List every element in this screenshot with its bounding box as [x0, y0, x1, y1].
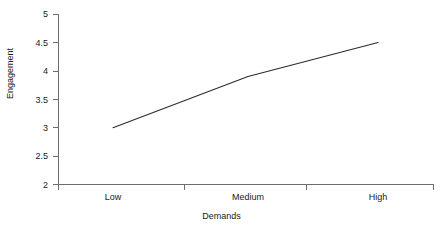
- line-chart: 5 4.5 4 3.5 3 2.5 2 Low Medium High Enga…: [0, 0, 443, 241]
- y-tick-label-5: 5: [22, 9, 48, 19]
- y-tick-label-2: 2: [22, 180, 48, 190]
- y-tick-label-3-5: 3.5: [22, 95, 48, 105]
- y-tick-label-4-5: 4.5: [22, 38, 48, 48]
- series-line-engagement: [113, 42, 378, 127]
- y-tick-marks: [53, 15, 59, 185]
- plot-area: [0, 0, 443, 241]
- y-tick-label-4: 4: [22, 66, 48, 76]
- x-tick-label-medium: Medium: [232, 192, 264, 202]
- y-tick-label-2-5: 2.5: [22, 151, 48, 161]
- x-tick-marks: [59, 185, 434, 191]
- x-axis-title: Demands: [0, 211, 443, 221]
- x-tick-label-high: High: [369, 192, 388, 202]
- y-axis-title: Engagement: [5, 48, 15, 99]
- y-tick-label-3: 3: [22, 123, 48, 133]
- x-tick-label-low: Low: [105, 192, 122, 202]
